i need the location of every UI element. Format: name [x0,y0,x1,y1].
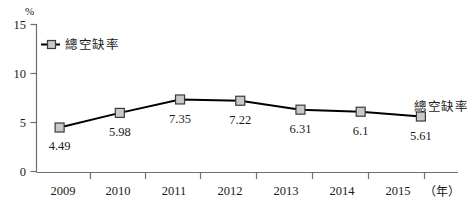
x-tick-label-2012: 2012 [205,185,255,198]
data-label-2014: 6.1 [336,125,386,138]
data-point-marker [356,107,365,116]
data-point-marker [176,95,185,104]
data-point-marker [296,105,305,114]
series-annotation-total-vacancy-rate: 總空缺率 [414,101,468,114]
x-tick-label-2011: 2011 [149,185,199,198]
line-chart: % 15 10 5 0 總空缺率 總空缺率 [0,0,474,206]
data-label-2012: 7.22 [215,114,265,127]
data-label-2009: 4.49 [35,140,85,153]
data-label-2011: 7.35 [155,113,205,126]
data-label-2015: 5.61 [396,130,446,143]
data-point-marker [236,96,245,105]
data-point-marker [115,108,124,117]
legend-label-total-vacancy-rate: 總空缺率 [65,39,119,52]
plot-area [0,0,474,206]
x-tick-label-2010: 2010 [93,185,143,198]
x-tick-label-2015: 2015 [373,185,423,198]
x-tick-label-2009: 2009 [38,185,88,198]
data-label-2010: 5.98 [95,126,145,139]
x-axis-unit-label: （年） [424,186,460,198]
legend-swatch-icon [41,41,60,49]
data-label-2013: 6.31 [275,123,325,136]
x-tick-label-2014: 2014 [317,185,367,198]
data-point-marker [55,123,64,132]
x-tick-label-2013: 2013 [261,185,311,198]
